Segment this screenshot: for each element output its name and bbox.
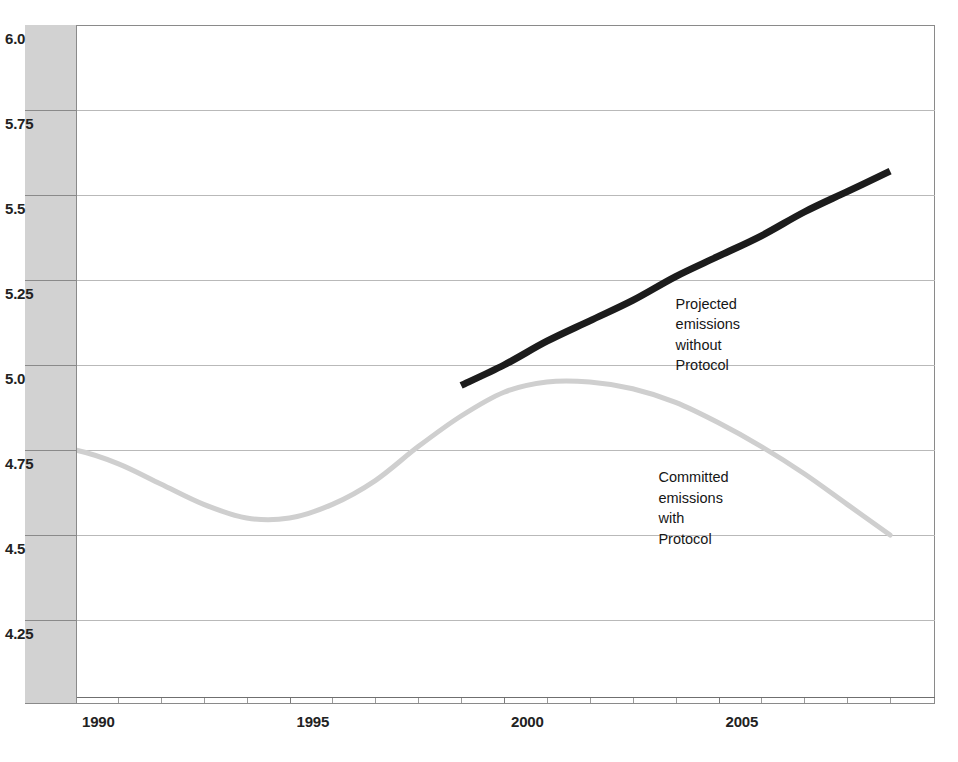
x-axis-tick-label: 2005	[726, 714, 759, 729]
y-axis-tick-label: 4.5	[5, 541, 25, 556]
y-axis-column-rule	[25, 450, 77, 451]
emissions-chart-figure: 6.05.755.55.255.04.754.54.25 Projectedem…	[0, 0, 958, 762]
annotation-line: without	[676, 335, 740, 356]
y-axis-column-rule	[25, 280, 77, 281]
y-axis-tick-label: 5.0	[5, 371, 25, 386]
x-axis-tick-label: 2000	[511, 714, 544, 729]
y-axis-column-rule	[25, 620, 77, 621]
annotation-line: Protocol	[658, 529, 728, 550]
annotation-line: with	[658, 508, 728, 529]
y-axis-tick-label: 4.25	[5, 626, 33, 641]
y-axis-tick-label: 5.5	[5, 201, 25, 216]
y-axis-column-rule	[25, 365, 77, 366]
annotation-line: Committed	[658, 467, 728, 488]
annotation-line: Projected	[676, 294, 740, 315]
y-axis-column-rule	[25, 195, 77, 196]
y-axis-column-rule	[25, 535, 77, 536]
committed-emissions-annotation: CommittedemissionswithProtocol	[658, 467, 728, 549]
x-axis-label-band	[25, 703, 935, 742]
committed-emissions-line	[77, 381, 890, 535]
x-axis-tick-label: 1990	[82, 714, 115, 729]
y-axis-tick-label: 5.25	[5, 286, 33, 301]
x-axis-tick-label: 1995	[297, 714, 330, 729]
annotation-line: emissions	[676, 314, 740, 335]
annotation-line: Protocol	[676, 355, 740, 376]
x-axis-line	[77, 697, 935, 698]
y-axis-tick-label: 5.75	[5, 116, 33, 131]
annotation-line: emissions	[658, 488, 728, 509]
plot-area: ProjectedemissionswithoutProtocol Commit…	[77, 25, 935, 697]
y-axis-column-rule	[25, 110, 77, 111]
y-axis-tick-label: 4.75	[5, 456, 33, 471]
y-axis-tick-label: 6.0	[5, 31, 25, 46]
projected-emissions-annotation: ProjectedemissionswithoutProtocol	[676, 294, 740, 376]
series-layer	[77, 25, 935, 697]
